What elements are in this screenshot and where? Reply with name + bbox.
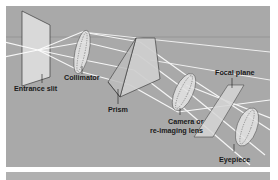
camera-lens xyxy=(167,70,200,114)
label-focal-plane: Focal plane xyxy=(215,68,255,77)
prism xyxy=(108,38,160,97)
label-eyepiece: Eyepiece xyxy=(219,155,250,164)
label-collimator: Collimator xyxy=(64,73,100,82)
eyepiece-lens xyxy=(231,105,263,149)
spectrograph-diagram: Entrance slit Collimator Prism Camera or… xyxy=(0,0,278,180)
label-prism: Prism xyxy=(108,105,128,114)
label-camera-line2: re-imaging lens xyxy=(150,126,203,135)
label-entrance-slit: Entrance slit xyxy=(14,84,58,93)
label-camera-line1: Camera or xyxy=(168,117,204,126)
